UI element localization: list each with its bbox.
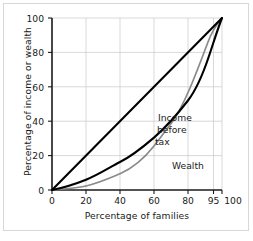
wealth-label: Wealth xyxy=(172,160,204,171)
lorenz-curve-figure: 100 80 60 40 20 0 0 20 40 60 80 95 100 P… xyxy=(0,0,253,241)
x-tick-label-80: 80 xyxy=(180,195,196,206)
x-tick-label-20: 20 xyxy=(78,195,94,206)
income-before-tax-label-line1: Income xyxy=(158,112,192,123)
x-axis-title: Percentage of families xyxy=(52,210,222,221)
x-tick-label-100: 100 xyxy=(222,195,244,206)
x-tick-label-60: 60 xyxy=(146,195,162,206)
x-tick-label-0: 0 xyxy=(44,195,60,206)
x-tick-label-95: 95 xyxy=(206,195,222,206)
income-before-tax-label-line2: before xyxy=(157,124,187,135)
x-tick-label-40: 40 xyxy=(112,195,128,206)
income-before-tax-label-line3: tax xyxy=(155,136,170,147)
y-axis-title: Percentage of income or wealth xyxy=(22,12,33,192)
